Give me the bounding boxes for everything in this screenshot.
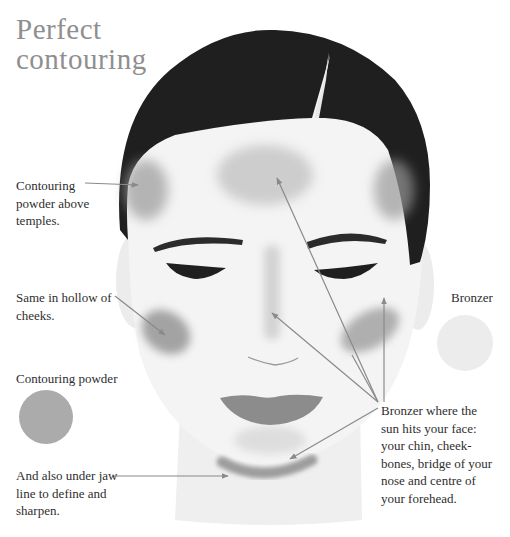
label-line: your forehead.: [381, 490, 492, 508]
label-line: sharpen.: [16, 502, 117, 520]
contour-right-temple: [374, 160, 414, 220]
label-cheeks: Same in hollow of cheeks.: [16, 289, 112, 324]
label-bronzer-areas: Bronzer where the sun hits your face: yo…: [381, 402, 492, 507]
label-line: Contouring: [16, 177, 89, 195]
label-jaw: And also under jaw line to define and sh…: [16, 467, 117, 520]
label-line: temples.: [16, 212, 89, 230]
label-line: Same in hollow of: [16, 289, 112, 307]
title-line-1: Perfect: [16, 14, 147, 44]
bronzer-chin: [234, 426, 306, 454]
page-title: Perfect contouring: [16, 14, 147, 74]
label-line: powder above: [16, 195, 89, 213]
bronzer-forehead: [217, 145, 313, 205]
bronzer-nose: [264, 245, 280, 340]
label-temples: Contouring powder above temples.: [16, 177, 89, 230]
label-line: cheeks.: [16, 307, 112, 325]
label-line: nose and centre of: [381, 472, 492, 490]
bronzer-swatch: [437, 315, 493, 371]
label-line: bones, bridge of your: [381, 455, 492, 473]
label-line: Contouring powder: [16, 370, 117, 388]
label-line: your chin, cheek-: [381, 437, 492, 455]
title-line-2: contouring: [16, 44, 147, 74]
label-line: Bronzer: [451, 289, 493, 307]
label-line: And also under jaw: [16, 467, 117, 485]
label-line: line to define and: [16, 485, 117, 503]
label-line: sun hits your face:: [381, 420, 492, 438]
contouring-powder-swatch: [19, 390, 73, 444]
label-line: Bronzer where the: [381, 402, 492, 420]
contour-left-temple: [124, 160, 168, 220]
label-bronzer: Bronzer: [451, 289, 493, 307]
label-contouring-powder: Contouring powder: [16, 370, 117, 388]
